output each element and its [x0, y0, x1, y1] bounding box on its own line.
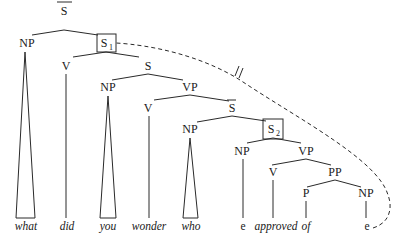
svg-text:S: S: [61, 4, 68, 18]
edge-s-np: [112, 74, 148, 80]
node-sbar-inner: S: [227, 100, 236, 115]
edge-vp-v: [154, 95, 190, 100]
triangle-np-who: [183, 138, 198, 218]
edge-s1-v: [73, 52, 106, 57]
edge-s2-np: [247, 138, 273, 143]
edge-vp-sbar: [190, 95, 229, 101]
node-s-mid: S: [145, 59, 152, 73]
svg-text:1: 1: [109, 43, 113, 52]
node-sbar-top: S: [57, 2, 72, 18]
blocking-mark-icon: [235, 66, 243, 78]
edge-s-vp: [148, 74, 183, 80]
node-np-e: NP: [234, 144, 250, 158]
word-of: of: [302, 220, 313, 233]
edge-s1-s: [106, 52, 139, 57]
triangle-np-what: [16, 52, 35, 218]
node-pp-of: PP: [328, 165, 342, 179]
edge-pp-np: [335, 180, 361, 187]
movement-path-dashed: [116, 43, 390, 228]
node-v-wonder: V: [144, 101, 153, 115]
node-np-who: NP: [182, 122, 198, 136]
edge-vp-pp: [306, 159, 331, 165]
edge-pp-p: [307, 180, 335, 187]
node-np-gap: NP: [358, 186, 374, 200]
node-v-did: V: [62, 59, 71, 73]
word-wonder: wonder: [132, 220, 167, 232]
word-what: what: [15, 220, 38, 232]
syntax-tree-diagram: S NP S 1 V S NP VP V S NP S 2 NP: [0, 0, 404, 247]
edge-sbar-np-who: [197, 116, 232, 122]
word-did: did: [60, 220, 75, 232]
node-p-of: P: [303, 186, 310, 200]
word-you: you: [99, 220, 117, 233]
node-vp-wonder: VP: [182, 80, 198, 94]
node-np-you: NP: [100, 80, 116, 94]
node-vp-approved: VP: [298, 144, 314, 158]
node-s2: S 2: [263, 119, 283, 139]
edge-sbar-np: [32, 30, 64, 35]
edge-s2-vp: [273, 138, 301, 143]
triangle-np-you: [100, 96, 116, 218]
edge-sbar-s1: [64, 30, 98, 35]
svg-text:S: S: [101, 36, 108, 50]
node-v-approved: V: [269, 165, 278, 179]
edge-sbar-s2: [232, 116, 266, 121]
word-approved: approved: [254, 220, 297, 233]
svg-text:S: S: [268, 122, 275, 136]
svg-text:2: 2: [276, 129, 280, 138]
node-s1: S 1: [97, 34, 116, 52]
word-e-gap: e: [364, 220, 369, 232]
node-np-what: NP: [19, 36, 35, 50]
word-e-subject: e: [240, 220, 245, 232]
word-who: who: [181, 220, 200, 232]
svg-text:S: S: [229, 101, 236, 115]
